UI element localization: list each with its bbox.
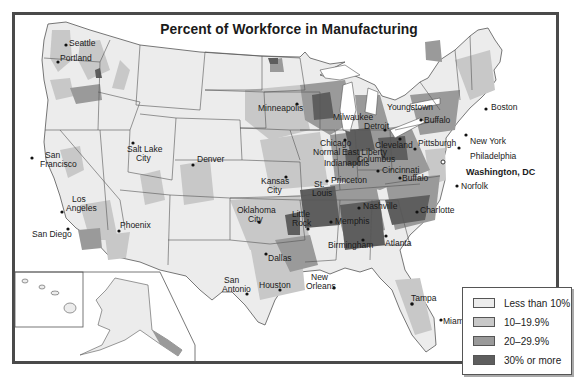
svg-text:Youngstown: Youngstown <box>387 102 433 112</box>
svg-text:Washington, DC: Washington, DC <box>466 167 536 177</box>
svg-text:Pittsburgh: Pittsburgh <box>418 138 457 148</box>
svg-text:Houston: Houston <box>259 280 291 290</box>
svg-text:Seattle: Seattle <box>69 38 96 48</box>
legend: Less than 10% 10–19.9% 20–29.9% 30% or m… <box>462 287 572 375</box>
svg-text:Phoenix: Phoenix <box>120 220 151 230</box>
svg-text:San Diego: San Diego <box>32 229 72 239</box>
legend-item-20-29: 20–29.9% <box>473 335 549 347</box>
svg-text:City: City <box>136 153 151 163</box>
svg-text:Portland: Portland <box>60 53 92 63</box>
svg-text:Princeton: Princeton <box>331 175 367 185</box>
svg-text:Memphis: Memphis <box>335 216 369 226</box>
svg-text:City: City <box>267 185 282 195</box>
legend-label: Less than 10% <box>504 298 570 309</box>
svg-text:Charlotte: Charlotte <box>420 205 455 215</box>
hawaii-shape <box>22 279 76 313</box>
legend-swatch-lightest <box>473 298 495 308</box>
legend-item-30-plus: 30% or more <box>473 354 561 366</box>
svg-text:Buffalo: Buffalo <box>424 115 451 125</box>
svg-text:Indianapolis: Indianapolis <box>324 158 369 168</box>
inset-region <box>15 272 195 362</box>
svg-text:Cleveland: Cleveland <box>375 140 413 150</box>
legend-swatch-dark <box>473 355 495 365</box>
legend-swatch-light <box>473 317 495 327</box>
svg-text:Atlanta: Atlanta <box>385 238 412 248</box>
legend-item-less-than-10: Less than 10% <box>473 297 570 309</box>
svg-text:Boston: Boston <box>491 102 518 112</box>
legend-label: 30% or more <box>504 355 561 366</box>
legend-label: 10–19.9% <box>504 317 549 328</box>
svg-text:Rock: Rock <box>292 218 312 228</box>
svg-text:Angeles: Angeles <box>66 203 97 213</box>
svg-text:Denver: Denver <box>197 154 225 164</box>
svg-text:New York: New York <box>470 136 507 146</box>
svg-text:Orleans: Orleans <box>306 281 336 291</box>
svg-text:Detroit: Detroit <box>364 121 390 131</box>
legend-label: 20–29.9% <box>504 336 549 347</box>
svg-text:Philadelphia: Philadelphia <box>470 151 517 161</box>
svg-text:Tampa: Tampa <box>411 293 437 303</box>
svg-text:Buffalo: Buffalo <box>402 173 429 183</box>
map-title: Percent of Workforce in Manufacturing <box>23 20 555 37</box>
svg-text:Dallas: Dallas <box>268 253 292 263</box>
svg-text:Minneapolis: Minneapolis <box>258 103 303 113</box>
legend-item-10-19: 10–19.9% <box>473 316 549 328</box>
svg-text:City: City <box>248 214 263 224</box>
svg-text:Nashville: Nashville <box>363 201 398 211</box>
svg-text:Louis: Louis <box>312 188 332 198</box>
svg-text:Francisco: Francisco <box>40 159 77 169</box>
svg-text:Norfolk: Norfolk <box>461 181 489 191</box>
svg-text:Birmingham: Birmingham <box>328 240 373 250</box>
svg-text:Normal: Normal <box>313 147 341 157</box>
legend-swatch-medium <box>473 336 495 346</box>
